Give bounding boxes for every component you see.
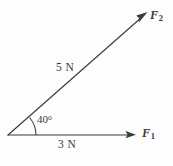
vector-label-f1-subscript: 1 xyxy=(150,131,155,141)
vector-f2-group xyxy=(8,12,148,135)
vector-label-f1: F1 xyxy=(142,127,155,141)
vector-diagram-canvas xyxy=(0,0,173,166)
angle-label: 40o xyxy=(37,114,52,125)
vector-label-f2: F2 xyxy=(150,9,163,23)
angle-arc xyxy=(30,118,36,136)
magnitude-label-f1: 3 N xyxy=(58,139,76,151)
vector-diagram-figure: F2 F1 5 N 3 N 40o xyxy=(0,0,173,166)
angle-label-degree-symbol: o xyxy=(48,113,52,122)
vector-f2-shaft xyxy=(8,17,142,135)
angle-label-value: 40 xyxy=(37,113,48,125)
vector-label-f2-subscript: 2 xyxy=(158,13,163,23)
magnitude-label-f2: 5 N xyxy=(56,62,74,74)
